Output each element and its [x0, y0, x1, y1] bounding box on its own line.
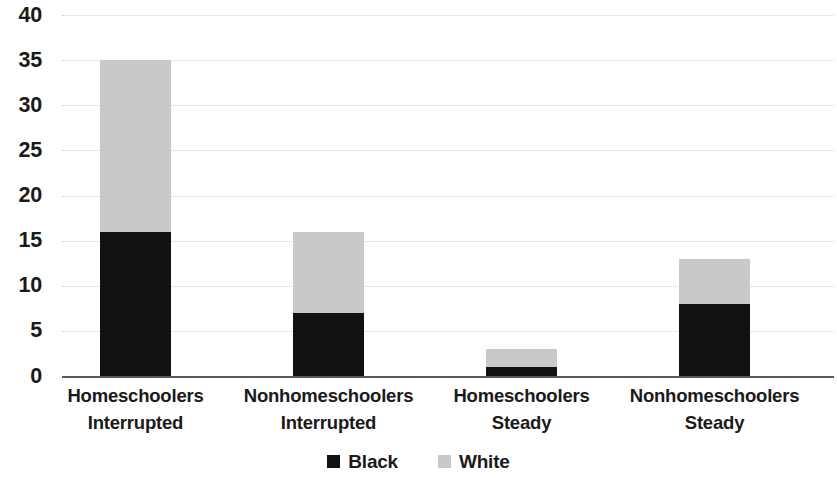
chart-legend: BlackWhite: [0, 452, 837, 471]
plot-area: [62, 15, 834, 376]
x-axis-category-line: Nonhomeschoolers: [618, 382, 811, 409]
y-tick-label: 15: [0, 230, 42, 252]
bar-group[interactable]: [486, 349, 557, 376]
bar-segment-black[interactable]: [486, 367, 557, 376]
y-tick-label: 20: [0, 185, 42, 207]
x-axis-category-line: Nonhomeschoolers: [232, 382, 425, 409]
x-axis-category-line: Homeschoolers: [425, 382, 618, 409]
x-axis-category-label: HomeschoolersInterrupted: [39, 382, 232, 436]
y-tick-label: 40: [0, 5, 42, 27]
y-tick-label: 5: [0, 320, 42, 342]
y-tick-label: 10: [0, 275, 42, 297]
bar-segment-white[interactable]: [679, 259, 750, 304]
y-tick-label: 35: [0, 50, 42, 72]
legend-label: Black: [348, 452, 398, 471]
bar-segment-black[interactable]: [100, 232, 171, 376]
legend-swatch-white: [438, 455, 451, 468]
x-axis-category-label: NonhomeschoolersInterrupted: [232, 382, 425, 436]
x-axis: HomeschoolersInterruptedNonhomeschoolers…: [62, 382, 834, 444]
bar-group[interactable]: [100, 60, 171, 376]
y-tick-label: 30: [0, 95, 42, 117]
y-tick-label: 25: [0, 140, 42, 162]
bar-group[interactable]: [293, 232, 364, 376]
bars-layer: [62, 15, 834, 376]
bar-segment-black[interactable]: [293, 313, 364, 376]
bar-group[interactable]: [679, 259, 750, 376]
axis-zero-line: [62, 376, 834, 378]
x-axis-category-line: Steady: [425, 409, 618, 436]
x-axis-category-line: Homeschoolers: [39, 382, 232, 409]
bar-segment-white[interactable]: [100, 60, 171, 231]
legend-item[interactable]: White: [438, 452, 510, 471]
y-tick-label: 0: [0, 366, 42, 388]
legend-swatch-black: [327, 455, 340, 468]
x-axis-category-label: NonhomeschoolersSteady: [618, 382, 811, 436]
legend-label: White: [459, 452, 510, 471]
stacked-bar-chart: 4035302520151050 HomeschoolersInterrupte…: [0, 0, 837, 483]
legend-item[interactable]: Black: [327, 452, 398, 471]
x-axis-category-line: Steady: [618, 409, 811, 436]
bar-segment-black[interactable]: [679, 304, 750, 376]
bar-segment-white[interactable]: [486, 349, 557, 367]
x-axis-category-line: Interrupted: [39, 409, 232, 436]
bar-segment-white[interactable]: [293, 232, 364, 313]
x-axis-category-line: Interrupted: [232, 409, 425, 436]
x-axis-category-label: HomeschoolersSteady: [425, 382, 618, 436]
